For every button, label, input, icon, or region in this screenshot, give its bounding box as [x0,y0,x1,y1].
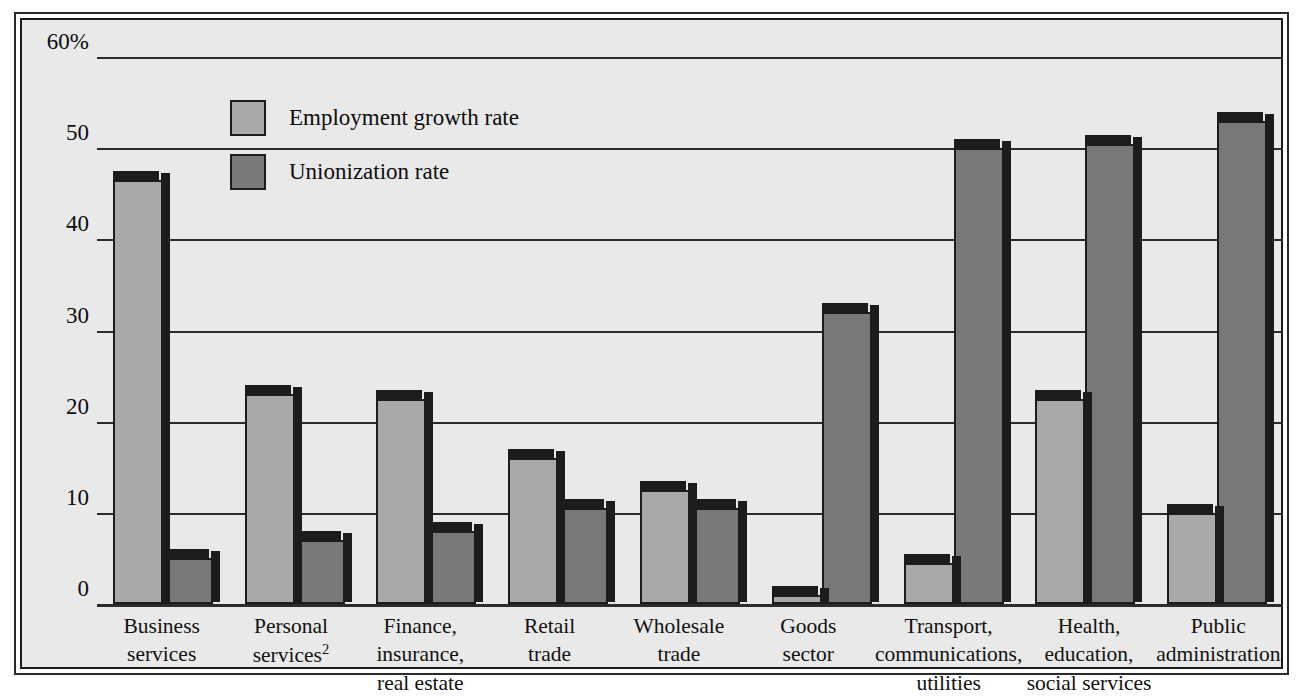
bar-slot [772,595,822,604]
y-axis-tick-0: 0 [78,577,90,604]
bar-slot [508,458,558,604]
bar-slot [113,180,163,604]
chart-figure: 60%50403020100 Employment growth rateUni… [0,0,1303,699]
bar-slot [245,394,295,604]
x-axis-label: Wholesaletrade [614,612,743,697]
x-axis-label: Personalservices2 [226,612,355,697]
bar-slot [904,563,954,604]
bar-employment-growth-rate [904,563,954,604]
bar-unionization-rate [426,531,476,604]
legend-swatch-icon [230,100,266,136]
legend-label: Employment growth rate [289,105,519,131]
y-axis-tick-10: 10 [66,486,89,513]
legend-label: Unionization rate [289,159,449,185]
y-axis-tick-60: 60% [47,30,89,57]
bar-unionization-rate [1085,144,1135,604]
bar-employment-growth-rate [376,399,426,604]
y-axis-tick-20: 20 [66,395,89,422]
x-axis-label: Health,education,social services [1024,612,1153,697]
bar-slot [954,148,1004,604]
bar-employment-growth-rate [1167,513,1217,604]
x-axis-label: Retailtrade [485,612,614,697]
x-axis-label: Transport,communications,utilities [873,612,1025,697]
bar-slot [1167,513,1217,604]
bar-group [97,57,229,604]
x-axis-label: Finance,insurance,real estate [356,612,485,697]
x-axis-label: Businessservices [97,612,226,697]
bar-unionization-rate [163,558,213,604]
bar-slot [1035,399,1085,604]
legend-swatch-icon [230,154,266,190]
bar-slot [690,508,740,604]
bar-group [1019,57,1151,604]
bar-unionization-rate [822,312,872,604]
x-axis-labels: BusinessservicesPersonalservices2Finance… [97,612,1283,697]
bar-unionization-rate [690,508,740,604]
x-axis-label: Goodssector [744,612,873,697]
bar-employment-growth-rate [245,394,295,604]
bar-employment-growth-rate [1035,399,1085,604]
bar-slot [558,508,608,604]
bar-slot [376,399,426,604]
chart-plot-frame: 60%50403020100 Employment growth rateUni… [20,18,1283,669]
bar-unionization-rate [558,508,608,604]
legend-item: Unionization rate [230,154,519,190]
bar-slot [640,490,690,604]
footnote-marker: 2 [322,641,329,657]
bar-employment-growth-rate [113,180,163,604]
bar-slot [426,531,476,604]
gridline-0 [97,604,1283,607]
bar-unionization-rate [954,148,1004,604]
x-axis-label: Publicadministration [1154,612,1283,697]
bar-slot [163,558,213,604]
bar-employment-growth-rate [772,595,822,604]
bar-group [1151,57,1283,604]
bar-employment-growth-rate [640,490,690,604]
y-axis-tick-40: 40 [66,212,89,239]
bar-unionization-rate [295,540,345,604]
bar-unionization-rate [1217,121,1267,604]
y-axis-tick-30: 30 [66,303,89,330]
legend-item: Employment growth rate [230,100,519,136]
bar-group [888,57,1020,604]
bar-slot [1085,144,1135,604]
y-axis-tick-50: 50 [66,121,89,148]
chart-legend: Employment growth rateUnionization rate [230,100,519,208]
bar-employment-growth-rate [508,458,558,604]
bar-slot [295,540,345,604]
bar-group [756,57,888,604]
bar-group [624,57,756,604]
bar-slot [1217,121,1267,604]
bar-slot [822,312,872,604]
